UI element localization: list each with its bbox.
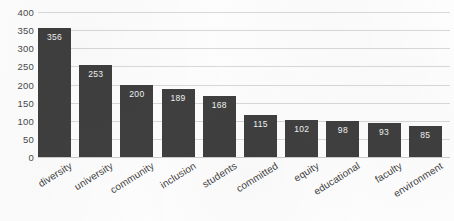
bar-slot: 115 xyxy=(244,12,285,157)
bar-students: 168 xyxy=(203,96,236,157)
x-axis-label-educational: educational xyxy=(312,160,362,197)
x-axis-label-students: students xyxy=(200,160,239,190)
x-axis-label-community: community xyxy=(109,160,157,195)
bar-slot: 356 xyxy=(38,12,79,157)
gridline-0 xyxy=(38,157,450,158)
x-axis-label-inclusion: inclusion xyxy=(158,160,198,190)
bar-university: 253 xyxy=(79,65,112,157)
x-axis-label-diversity: diversity xyxy=(36,160,74,189)
bar-value-label: 200 xyxy=(120,89,153,99)
bar-equity: 102 xyxy=(285,120,318,157)
bar-chart: 400350300250200150100500 356253200189168… xyxy=(0,0,454,221)
bar-slot: 168 xyxy=(203,12,244,157)
bar-value-label: 98 xyxy=(326,125,359,135)
x-axis-label-faculty: faculty xyxy=(372,160,403,185)
y-axis-tick-label: 400 xyxy=(0,7,34,18)
y-axis-tick-label: 0 xyxy=(0,152,34,163)
bar-slot: 200 xyxy=(120,12,161,157)
x-axis-label-committed: committed xyxy=(234,160,280,194)
bar-community: 200 xyxy=(120,85,153,158)
bar-value-label: 168 xyxy=(203,100,236,110)
bar-value-label: 356 xyxy=(38,32,71,42)
bar-slot: 102 xyxy=(285,12,326,157)
bar-inclusion: 189 xyxy=(162,89,195,158)
bar-slot: 98 xyxy=(326,12,367,157)
bar-value-label: 93 xyxy=(368,127,401,137)
y-axis-tick-label: 350 xyxy=(0,25,34,36)
bar-educational: 98 xyxy=(326,121,359,157)
bar-slot: 189 xyxy=(162,12,203,157)
bar-slot: 253 xyxy=(79,12,120,157)
y-axis-tick-label: 200 xyxy=(0,79,34,90)
x-axis-label-equity: equity xyxy=(292,160,321,184)
bar-committed: 115 xyxy=(244,115,277,157)
x-axis: diversityuniversitycommunityinclusionstu… xyxy=(38,160,454,221)
y-axis-tick-label: 250 xyxy=(0,61,34,72)
bar-value-label: 189 xyxy=(162,93,195,103)
bar-value-label: 102 xyxy=(285,124,318,134)
y-axis-tick-label: 300 xyxy=(0,43,34,54)
bar-value-label: 253 xyxy=(79,69,112,79)
bar-value-label: 85 xyxy=(409,130,442,140)
bar-environment: 85 xyxy=(409,126,442,157)
bar-faculty: 93 xyxy=(368,123,401,157)
y-axis-tick-label: 100 xyxy=(0,115,34,126)
bar-series: 356253200189168115102989385 xyxy=(38,12,450,157)
y-axis-tick-label: 50 xyxy=(0,133,34,144)
bar-slot: 93 xyxy=(368,12,409,157)
bar-slot: 85 xyxy=(409,12,450,157)
y-axis-tick-label: 150 xyxy=(0,97,34,108)
bar-value-label: 115 xyxy=(244,119,277,129)
bar-diversity: 356 xyxy=(38,28,71,157)
